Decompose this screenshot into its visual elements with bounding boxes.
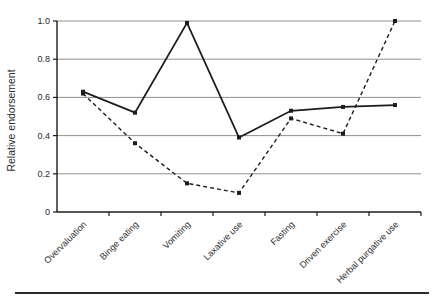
y-tick-label: 0.2 [37,169,50,179]
x-tick-label: Fasting [268,219,296,247]
data-point-marker [185,181,189,185]
y-tick-label: 1.0 [37,16,50,26]
series-solid [81,21,397,140]
x-tick-label: Laxative use [202,219,245,262]
y-tick-label: 0.4 [37,131,50,141]
solid-polyline [83,23,395,138]
data-point-marker [237,136,241,140]
data-point-marker [289,109,293,113]
y-tick-label: 0.6 [37,92,50,102]
data-point-marker [133,111,137,115]
y-axis-title: Relative endorsement [5,69,17,171]
data-point-marker [185,21,189,25]
y-tick-label: 0 [45,207,50,217]
figure-divider [15,292,429,294]
x-tick-label: Binge eating [98,219,140,261]
data-point-marker [393,103,397,107]
data-point-marker [341,132,345,136]
x-tick-label: Vomiting [161,219,192,250]
gridlines [57,21,421,174]
data-point-marker [289,116,293,120]
line-chart: 00.20.40.60.81.0OvervaluationBinge eatin… [0,0,440,299]
y-axis-ticks: 00.20.40.60.81.0 [37,16,57,217]
figure: 00.20.40.60.81.0OvervaluationBinge eatin… [0,0,440,299]
y-tick-label: 0.8 [37,54,50,64]
data-point-marker [81,92,85,96]
data-point-marker [341,105,345,109]
data-point-marker [237,191,241,195]
x-axis-labels: OvervaluationBinge eatingVomitingLaxativ… [42,219,400,285]
axes [57,21,421,212]
data-point-marker [133,141,137,145]
x-tick-label: Overvaluation [42,219,88,265]
data-point-marker [393,19,397,23]
x-tick-label: Driven exercise [297,219,348,270]
